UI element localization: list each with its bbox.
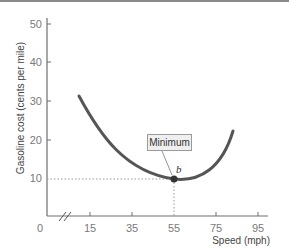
y-tick-label: 40 (30, 56, 42, 68)
minimum-point (171, 176, 178, 183)
x-tick-label: 55 (168, 222, 180, 234)
y-tick-label: 50 (30, 18, 42, 30)
x-tick-label: 75 (210, 222, 222, 234)
origin-label: 0 (37, 222, 43, 234)
minimum-label: Minimum (149, 137, 190, 148)
chart-svg: 50 40 30 20 10 0 15 35 55 75 95 Speed (m… (0, 0, 289, 249)
y-axis-title: Gasoline cost (cents per mile) (15, 42, 26, 174)
x-tick-label: 15 (84, 222, 96, 234)
y-tick-label: 30 (30, 95, 42, 107)
x-axis-title: Speed (mph) (212, 235, 270, 246)
x-tick-label: 35 (126, 222, 138, 234)
y-tick-label: 20 (30, 134, 42, 146)
callout-leader (162, 151, 172, 175)
y-tick-label: 10 (30, 172, 42, 184)
point-b-label: b (176, 163, 182, 175)
x-tick-label: 95 (252, 222, 264, 234)
